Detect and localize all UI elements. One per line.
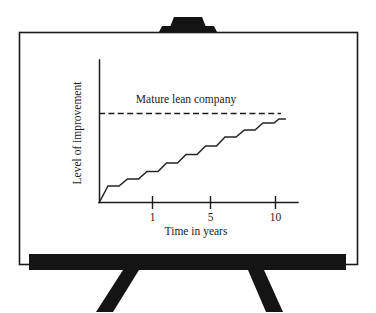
- mature-lean-company-label: Mature lean company: [136, 93, 237, 106]
- x-tick-label-5: 5: [208, 211, 214, 223]
- flipchart-easel-diagram: 1 5 10 Time in years Level of improvemen…: [0, 0, 376, 313]
- y-axis-title: Level of improvement: [71, 81, 84, 185]
- easel-left-leg: [96, 270, 139, 312]
- figure-root: 1 5 10 Time in years Level of improvemen…: [0, 0, 376, 313]
- top-clip-cap-trapezoid: [170, 17, 206, 27]
- easel-bottom-tray: [29, 254, 346, 270]
- easel-right-leg: [248, 270, 283, 312]
- x-axis-title: Time in years: [165, 225, 228, 238]
- x-tick-label-1: 1: [150, 211, 156, 223]
- x-tick-label-10: 10: [270, 211, 282, 223]
